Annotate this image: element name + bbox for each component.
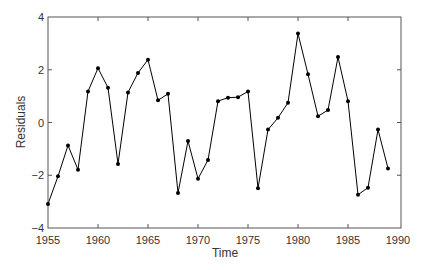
data-point-marker bbox=[106, 86, 110, 90]
data-point-marker bbox=[226, 96, 230, 100]
data-point-marker bbox=[166, 92, 170, 96]
x-tick-label: 1960 bbox=[86, 234, 110, 246]
data-point-marker bbox=[216, 99, 220, 103]
data-point-marker bbox=[346, 99, 350, 103]
y-axis-label: Residuals bbox=[14, 96, 28, 149]
data-point-marker bbox=[276, 116, 280, 120]
data-point-marker bbox=[96, 66, 100, 70]
data-point-marker bbox=[56, 174, 60, 178]
data-point-marker bbox=[146, 58, 150, 62]
data-point-marker bbox=[376, 128, 380, 132]
data-point-marker bbox=[206, 158, 210, 162]
x-tick-label: 1970 bbox=[186, 234, 210, 246]
x-axis-ticks: 19551960196519701975198019851990 bbox=[36, 17, 410, 246]
y-tick-label: 0 bbox=[38, 117, 44, 129]
data-point-marker bbox=[76, 168, 80, 172]
data-point-marker bbox=[316, 114, 320, 118]
data-point-marker bbox=[186, 139, 190, 143]
data-series bbox=[46, 32, 390, 206]
x-axis-label: Time bbox=[212, 246, 239, 260]
data-point-marker bbox=[266, 128, 270, 132]
y-tick-label: 2 bbox=[38, 64, 44, 76]
x-tick-label: 1985 bbox=[336, 234, 360, 246]
data-point-marker bbox=[366, 186, 370, 190]
x-tick-label: 1990 bbox=[386, 234, 410, 246]
data-point-marker bbox=[286, 101, 290, 105]
data-point-marker bbox=[336, 55, 340, 59]
x-tick-label: 1980 bbox=[286, 234, 310, 246]
data-point-marker bbox=[66, 143, 70, 147]
y-tick-label: −4 bbox=[31, 222, 44, 234]
data-point-marker bbox=[116, 162, 120, 166]
data-point-marker bbox=[296, 32, 300, 36]
data-point-marker bbox=[126, 90, 130, 94]
series-line bbox=[48, 34, 388, 204]
data-point-marker bbox=[176, 191, 180, 195]
data-point-marker bbox=[386, 166, 390, 170]
y-tick-label: 4 bbox=[38, 11, 44, 23]
residuals-line-chart: 19551960196519701975198019851990 −4−2024… bbox=[0, 0, 428, 270]
y-axis-ticks: −4−2024 bbox=[31, 11, 401, 234]
data-point-marker bbox=[196, 177, 200, 181]
plot-border bbox=[48, 17, 401, 228]
x-tick-label: 1975 bbox=[236, 234, 260, 246]
data-point-marker bbox=[256, 186, 260, 190]
plot-frame bbox=[48, 17, 401, 228]
data-point-marker bbox=[86, 89, 90, 93]
data-point-marker bbox=[246, 89, 250, 93]
x-tick-label: 1955 bbox=[36, 234, 60, 246]
data-point-marker bbox=[356, 193, 360, 197]
y-tick-label: −2 bbox=[31, 169, 44, 181]
data-point-marker bbox=[306, 72, 310, 76]
data-point-marker bbox=[136, 71, 140, 75]
data-point-marker bbox=[156, 98, 160, 102]
data-point-marker bbox=[46, 202, 50, 206]
x-tick-label: 1965 bbox=[136, 234, 160, 246]
data-point-marker bbox=[236, 95, 240, 99]
data-point-marker bbox=[326, 108, 330, 112]
